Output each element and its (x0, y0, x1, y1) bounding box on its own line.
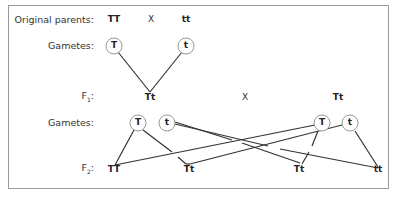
f2-genotype: Tt (294, 164, 304, 174)
f2-label: F2: (82, 162, 95, 175)
cross-symbol: X (148, 14, 154, 24)
f1-cross-symbol: X (242, 92, 248, 102)
f1-genotype-right: Tt (333, 92, 343, 102)
parent-gamete-right: t (184, 40, 188, 50)
parent-gamete-left: T (111, 40, 117, 50)
original-parents-label: Original parents: (15, 14, 94, 25)
f2-genotype: TT (108, 164, 121, 174)
parent-gametes-label: Gametes: (48, 40, 94, 51)
f1-genotype-left: Tt (145, 92, 155, 102)
f2-genotype: tt (374, 164, 383, 174)
f1-gamete-right-t: t (348, 117, 352, 127)
f1-gametes-label: Gametes: (48, 117, 94, 128)
parent-genotype-right: tt (182, 14, 191, 24)
f1-gamete-right-T: T (319, 117, 325, 127)
f1-gamete-left-T: T (135, 117, 141, 127)
f1-label: F1: (82, 90, 95, 103)
f1-gamete-left-t: t (165, 117, 169, 127)
f2-genotype: Tt (184, 164, 194, 174)
parent-genotype-left: TT (108, 14, 121, 24)
